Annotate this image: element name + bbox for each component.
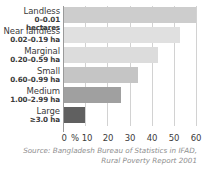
source-line-1: Source: Bangladesh Bureau of Statistics … <box>0 146 197 156</box>
category-range: 0.20–0.59 ha <box>0 56 60 65</box>
category-range: ≥3.0 ha <box>0 116 60 125</box>
chart-figure: Landless 0–0.01 hectares Near landless 0… <box>0 0 205 170</box>
category-range: 0.60–0.99 ha <box>0 76 60 85</box>
x-axis-ticks: 0 % 10 20 30 40 50 60 <box>0 133 205 145</box>
bar-medium <box>63 87 121 103</box>
category-label-large: Large ≥3.0 ha <box>0 107 60 124</box>
gridline-60 <box>196 6 197 126</box>
source-line-2: Rural Poverty Report 2001 <box>0 156 197 166</box>
bar-row <box>63 86 196 106</box>
bar-near-landless <box>63 27 180 43</box>
category-label-row: Small 0.60–0.99 ha <box>0 66 60 86</box>
x-tick-40: 40 <box>147 133 157 143</box>
category-label-medium: Medium 1.00–2.99 ha <box>0 87 60 104</box>
x-tick-60: 60 <box>191 133 201 143</box>
category-label-row: Large ≥3.0 ha <box>0 106 60 126</box>
category-range: 0.02–0.19 ha <box>0 36 60 45</box>
plot-area <box>63 6 196 126</box>
bar-row <box>63 46 196 66</box>
y-axis-line <box>63 6 64 132</box>
category-label-marginal: Marginal 0.20–0.59 ha <box>0 47 60 64</box>
bar-landless <box>63 7 196 23</box>
x-tick-30: 30 <box>125 133 135 143</box>
bar-large <box>63 107 85 123</box>
bar-small <box>63 67 138 83</box>
bar-row <box>63 66 196 86</box>
x-tick-0: 0 <box>61 133 66 143</box>
bar-row <box>63 6 196 26</box>
x-tick-10: 10 <box>82 133 92 143</box>
category-label-row: Landless 0–0.01 hectares <box>0 6 60 26</box>
category-label-row: Medium 1.00–2.99 ha <box>0 86 60 106</box>
x-axis-percent-symbol: % <box>71 133 79 143</box>
category-label-row: Marginal 0.20–0.59 ha <box>0 46 60 66</box>
bar-marginal <box>63 47 158 63</box>
category-label-row: Near landless 0.02–0.19 ha <box>0 26 60 46</box>
category-range: 1.00–2.99 ha <box>0 96 60 105</box>
bar-row <box>63 26 196 46</box>
category-label-small: Small 0.60–0.99 ha <box>0 67 60 84</box>
source-caption: Source: Bangladesh Bureau of Statistics … <box>0 146 200 165</box>
bar-row <box>63 106 196 126</box>
category-labels: Landless 0–0.01 hectares Near landless 0… <box>0 6 60 126</box>
x-tick-50: 50 <box>169 133 179 143</box>
category-label-near-landless: Near landless 0.02–0.19 ha <box>0 27 60 44</box>
x-tick-20: 20 <box>103 133 113 143</box>
